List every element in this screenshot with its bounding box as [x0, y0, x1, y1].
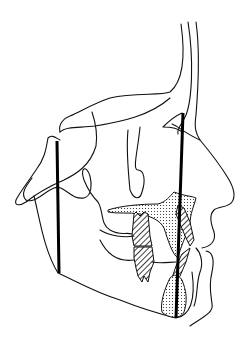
lower-lip — [194, 248, 202, 306]
upper-molar — [132, 212, 152, 246]
symphysis — [161, 275, 186, 317]
ramus-outline — [24, 169, 132, 234]
frontal-bone-inner — [60, 24, 183, 132]
orbit-curve — [127, 127, 144, 198]
soft-tissue-profile — [190, 22, 234, 326]
sella-line — [60, 98, 170, 132]
lower-molar — [134, 247, 154, 282]
posterior-reference-line — [57, 141, 59, 273]
cephalometric-tracing — [0, 0, 249, 345]
